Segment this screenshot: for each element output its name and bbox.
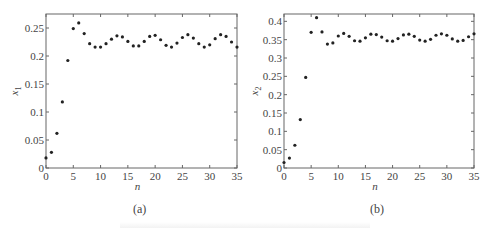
- x-tick-label: 15: [360, 170, 372, 182]
- data-point: [197, 42, 200, 45]
- data-point: [445, 34, 448, 37]
- y-tick-label: 0: [277, 162, 283, 174]
- data-point: [203, 45, 206, 48]
- data-point: [208, 43, 211, 46]
- data-point: [386, 39, 389, 42]
- x-tick-label: 30: [441, 170, 453, 182]
- data-point: [310, 31, 313, 34]
- data-point: [288, 157, 291, 160]
- chart-panel-b: 0510152025303500.050.10.150.20.250.30.35…: [245, 0, 491, 200]
- y-tick-label: 0.4: [268, 15, 282, 27]
- data-point: [175, 42, 178, 45]
- data-point: [293, 144, 296, 147]
- data-point: [214, 37, 217, 40]
- plot-frame: [46, 14, 237, 168]
- y-tick-label: 0.2: [30, 50, 44, 62]
- data-point: [164, 44, 167, 47]
- x-tick-label: 0: [281, 170, 287, 182]
- svg-text:x2: x2: [248, 87, 263, 97]
- data-point: [424, 40, 427, 43]
- y-axis-label: x2: [248, 87, 263, 97]
- x-tick-label: 5: [308, 170, 314, 182]
- data-point: [137, 44, 140, 47]
- y-axis-label: x1: [8, 87, 23, 97]
- data-point: [320, 30, 323, 33]
- data-point: [342, 32, 345, 35]
- panel-label-a: (a): [133, 202, 146, 217]
- data-point: [121, 35, 124, 38]
- data-point: [337, 34, 340, 37]
- data-point: [170, 45, 173, 48]
- x-tick-label: 35: [469, 170, 481, 182]
- data-point: [429, 38, 432, 41]
- data-point: [434, 34, 437, 37]
- data-point: [348, 35, 351, 38]
- scatter-plot-x2: 0510152025303500.050.10.150.20.250.30.35…: [245, 0, 491, 200]
- data-point: [186, 33, 189, 36]
- data-point: [44, 156, 47, 159]
- y-tick-label: 0.15: [25, 78, 45, 90]
- data-point: [467, 35, 470, 38]
- data-point: [282, 161, 285, 164]
- x-axis-label: n: [372, 180, 378, 192]
- y-tick-label: 0.1: [30, 106, 44, 118]
- x-tick-label: 0: [43, 170, 49, 182]
- data-point: [456, 40, 459, 43]
- data-point: [418, 38, 421, 41]
- y-tick-label: 0.1: [268, 125, 282, 137]
- data-point: [110, 38, 113, 41]
- data-point: [143, 40, 146, 43]
- data-point: [224, 35, 227, 38]
- data-point: [472, 32, 475, 35]
- data-point: [99, 45, 102, 48]
- data-point: [331, 41, 334, 44]
- x-tick-label: 20: [150, 170, 162, 182]
- y-tick-label: 0: [39, 162, 45, 174]
- x-tick-label: 5: [71, 170, 77, 182]
- data-point: [369, 33, 372, 36]
- y-tick-label: 0.05: [263, 144, 283, 156]
- data-point: [230, 40, 233, 43]
- x-tick-label: 10: [333, 170, 345, 182]
- y-tick-label: 0.3: [268, 52, 282, 64]
- plot-frame: [284, 14, 474, 168]
- x-tick-label: 35: [232, 170, 244, 182]
- svg-text:x1: x1: [8, 87, 23, 97]
- y-tick-label: 0.25: [25, 22, 45, 34]
- data-point: [126, 40, 129, 43]
- y-tick-label: 0.35: [263, 34, 283, 46]
- data-point: [94, 45, 97, 48]
- x-axis-label: n: [135, 180, 141, 192]
- data-point: [326, 42, 329, 45]
- data-point: [192, 36, 195, 39]
- panel-label-b: (b): [370, 202, 384, 217]
- data-point: [104, 42, 107, 45]
- x-tick-label: 10: [95, 170, 107, 182]
- y-tick-label: 0.15: [263, 107, 283, 119]
- x-tick-label: 25: [414, 170, 426, 182]
- data-point: [61, 100, 64, 103]
- data-point: [353, 39, 356, 42]
- data-point: [77, 21, 80, 24]
- data-point: [299, 118, 302, 121]
- x-tick-label: 30: [204, 170, 216, 182]
- scatter-plot-x1: 0510152025303500.050.10.150.20.25nx1: [0, 0, 245, 200]
- data-point: [440, 32, 443, 35]
- x-tick-label: 20: [387, 170, 399, 182]
- data-point: [462, 39, 465, 42]
- y-tick-label: 0.2: [268, 89, 282, 101]
- data-point: [380, 36, 383, 39]
- data-point: [83, 32, 86, 35]
- data-point: [181, 36, 184, 39]
- data-point: [235, 45, 238, 48]
- data-point: [88, 42, 91, 45]
- data-point: [413, 35, 416, 38]
- data-point: [55, 132, 58, 135]
- data-point: [391, 40, 394, 43]
- data-point: [72, 27, 75, 30]
- y-tick-label: 0.25: [263, 70, 283, 82]
- data-point: [407, 33, 410, 36]
- data-point: [115, 34, 118, 37]
- data-point: [358, 40, 361, 43]
- data-point: [148, 35, 151, 38]
